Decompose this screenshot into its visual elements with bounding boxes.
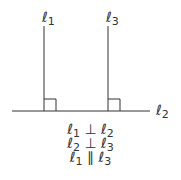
relation-l1-parallel-l3: ℓ1 ∥ ℓ3 [0,150,181,164]
label-l2: ℓ2 [156,103,169,117]
right-angle-marker-l3-l2 [108,99,120,111]
label-l1: ℓ1 [42,10,55,24]
label-l3: ℓ3 [106,10,119,24]
relation-l1-perp-l2: ℓ1 ⊥ ℓ2 [0,122,181,136]
relation-l2-perp-l3: ℓ2 ⊥ ℓ3 [0,136,181,150]
right-angle-marker-l1-l2 [44,99,56,111]
